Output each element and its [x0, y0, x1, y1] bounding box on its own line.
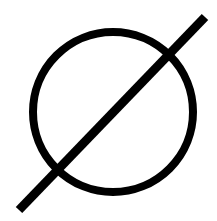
- icon-canvas: [0, 0, 217, 221]
- empty-set-icon: [0, 0, 217, 221]
- diagonal-slash: [19, 17, 205, 210]
